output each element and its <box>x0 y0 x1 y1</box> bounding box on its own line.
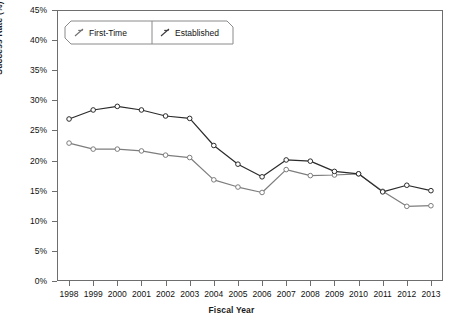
x-axis-tick-mark <box>141 281 142 286</box>
x-axis-tick-mark <box>286 281 287 286</box>
x-axis-tick-mark <box>190 281 191 286</box>
x-axis-tick-mark <box>359 281 360 286</box>
x-axis-tick-mark <box>334 281 335 286</box>
x-axis-tick-mark <box>93 281 94 286</box>
x-axis-tick-mark <box>214 281 215 286</box>
x-axis-tick-mark <box>117 281 118 286</box>
x-axis-tick-mark <box>407 281 408 286</box>
x-axis-title: Fiscal Year <box>0 305 463 315</box>
x-axis-tick-mark <box>431 281 432 286</box>
x-axis-tick-mark <box>383 281 384 286</box>
x-axis-tick-mark <box>310 281 311 286</box>
x-axis: 1998199920002001200220032004200520062007… <box>0 0 463 325</box>
x-axis-tick-label: 2013 <box>411 289 451 299</box>
x-axis-tick-mark <box>262 281 263 286</box>
x-axis-tick-mark <box>69 281 70 286</box>
x-axis-tick-mark <box>166 281 167 286</box>
x-axis-tick-mark <box>238 281 239 286</box>
line-chart: Success Rate (%) 0%5%10%15%20%25%30%35%4… <box>0 0 463 325</box>
